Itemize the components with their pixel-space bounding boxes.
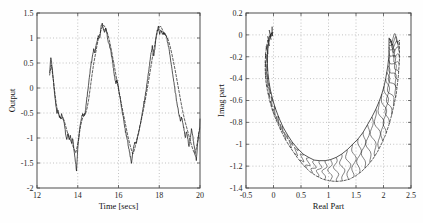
uncertainty-hair xyxy=(306,157,311,168)
y-tick-label: -1 xyxy=(236,140,243,149)
uncertainty-hair xyxy=(378,102,384,141)
y-tick-label: -0.5 xyxy=(21,109,34,118)
y-tick-label: -0.6 xyxy=(230,96,243,105)
uncertainty-hair xyxy=(370,117,376,156)
figure-container: 12141618201.510.50-0.5-1-1.5-2Time [secs… xyxy=(0,0,423,223)
y-tick-label: -0.8 xyxy=(230,118,243,127)
uncertainty-hair xyxy=(352,144,357,176)
y-tick-label: -0.2 xyxy=(230,53,243,62)
output-time-series-svg: 12141618201.510.50-0.5-1-1.5-2Time [secs… xyxy=(0,0,212,223)
x-tick-label: 18 xyxy=(155,191,163,200)
uncertainty-hair xyxy=(389,55,398,80)
series-measured-output xyxy=(50,23,200,171)
chart-panel-nyquist: -0.500.511.522.50.20-0.2-0.4-0.6-0.8-1-1… xyxy=(212,0,423,223)
uncertainty-hair xyxy=(357,139,362,173)
plot-curves xyxy=(50,23,200,171)
x-axis-title: Real Part xyxy=(313,201,345,211)
plot-curves xyxy=(265,27,399,182)
x-tick-label: 2.5 xyxy=(406,191,416,200)
x-tick-label: 1.5 xyxy=(351,191,361,200)
uncertainty-hair xyxy=(387,72,394,106)
y-tick-label: -1.2 xyxy=(230,162,243,171)
uncertainty-hair xyxy=(316,161,322,177)
x-tick-label: 1 xyxy=(327,191,331,200)
uncertainty-hair xyxy=(284,132,288,139)
y-tick-label: -2 xyxy=(27,184,34,193)
y-tick-label: -1 xyxy=(27,134,34,143)
y-tick-label: 0.5 xyxy=(24,59,34,68)
uncertainty-hair xyxy=(272,27,273,36)
uncertainty-hair xyxy=(389,47,399,64)
x-tick-label: 0.5 xyxy=(296,191,306,200)
y-tick-label: 1.5 xyxy=(24,9,34,18)
uncertainty-hair xyxy=(340,154,345,181)
x-tick-label: 20 xyxy=(196,191,204,200)
y-tick-label: -0.4 xyxy=(230,74,243,83)
uncertainty-hair xyxy=(361,132,366,168)
x-tick-label: 12 xyxy=(33,191,41,200)
x-axis-title: Time [secs] xyxy=(99,201,139,211)
y-tick-label: 1 xyxy=(30,34,34,43)
y-tick-label: 0 xyxy=(30,84,34,93)
uncertainty-hair xyxy=(311,160,316,173)
series-model-output xyxy=(50,25,200,154)
nyquist-plot-svg: -0.500.511.522.50.20-0.2-0.4-0.6-0.8-1-1… xyxy=(212,0,423,223)
y-tick-label: 0 xyxy=(239,31,243,40)
uncertainty-hair xyxy=(366,125,371,163)
uncertainty-hair xyxy=(333,157,338,181)
chart-panel-output-time-series: 12141618201.510.50-0.5-1-1.5-2Time [secs… xyxy=(0,0,212,223)
x-tick-label: 0 xyxy=(272,191,276,200)
uncertainty-hair xyxy=(381,94,386,133)
y-axis-title: Imag part xyxy=(216,83,226,116)
y-tick-label: -1.5 xyxy=(21,159,34,168)
x-tick-label: 16 xyxy=(115,191,123,200)
y-tick-label: -1.4 xyxy=(230,184,243,193)
uncertainty-hair xyxy=(346,150,351,180)
y-axis-title: Output xyxy=(7,88,17,112)
x-tick-label: 2 xyxy=(382,191,386,200)
x-tick-label: 14 xyxy=(74,191,82,200)
uncertainty-hair xyxy=(322,161,327,180)
y-tick-label: 0.2 xyxy=(233,9,243,18)
uncertainty-hair xyxy=(384,86,389,124)
series-uncertainty-hair-bundle xyxy=(265,27,399,182)
